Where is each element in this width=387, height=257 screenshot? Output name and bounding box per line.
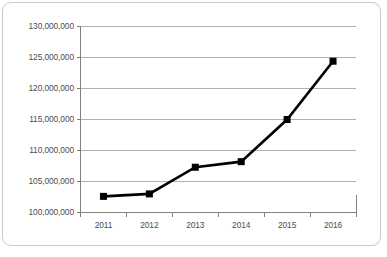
series-line [103, 61, 333, 196]
y-axis-tick-label: 120,000,000 [29, 84, 74, 92]
data-point-marker [284, 116, 291, 123]
y-tickmarks-group [77, 27, 81, 213]
x-axis-tick-label: 2016 [324, 221, 342, 229]
y-axis-tick-label: 115,000,000 [29, 115, 74, 123]
x-axis-tick-label: 2014 [232, 221, 250, 229]
y-axis-tick-label: 130,000,000 [29, 22, 74, 30]
x-axis-tick-label: 2013 [186, 221, 204, 229]
data-point-marker [192, 164, 199, 171]
data-markers-group [100, 58, 337, 200]
y-axis-tick-label: 100,000,000 [29, 208, 74, 216]
x-axis-tick-label: 2012 [140, 221, 158, 229]
y-axis-tick-label: 110,000,000 [29, 146, 74, 154]
data-point-marker [146, 190, 153, 197]
x-tickmarks-group [81, 213, 357, 217]
data-point-marker [238, 158, 245, 165]
chart-plot-area: 100,000,000105,000,000110,000,000115,000… [0, 0, 387, 257]
data-point-marker [330, 58, 337, 65]
data-series-group [103, 61, 333, 196]
gridlines-group [81, 27, 357, 213]
y-axis-tick-label: 105,000,000 [29, 177, 74, 185]
chart-svg [0, 0, 387, 257]
x-axis-tick-label: 2011 [95, 221, 113, 229]
x-axis-tick-label: 2015 [278, 221, 296, 229]
y-axis-tick-label: 125,000,000 [29, 53, 74, 61]
data-point-marker [100, 193, 107, 200]
